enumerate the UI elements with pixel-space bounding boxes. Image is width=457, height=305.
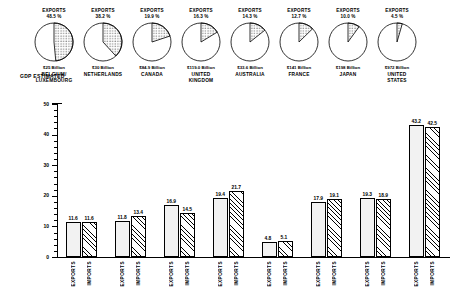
bar-value-label: 43.2 — [412, 119, 422, 124]
pie-country-name: AUSTRALIA — [235, 72, 265, 79]
bar-exports — [164, 205, 179, 257]
bar-imports — [180, 213, 195, 257]
bar-value-label: 19.3 — [363, 192, 373, 197]
y-axis-tick-label: 10 — [33, 224, 49, 229]
bar-value-label: 13.4 — [134, 210, 144, 215]
x-label-imports: IMPORTS — [87, 261, 92, 286]
pie-gdp-value: $119.0 Billion — [187, 65, 215, 72]
pie-circle — [279, 22, 319, 62]
bar-group: 43.242.5 — [400, 104, 449, 257]
pie-percent-label: 4.5 % — [391, 14, 403, 20]
bar-exports — [262, 242, 277, 257]
pie-cell: EXPORTS19.9 %$84.9 BillionCANADA — [126, 8, 178, 78]
pie-circle — [328, 22, 368, 62]
x-label-imports: IMPORTS — [332, 261, 337, 286]
bar-group: 11.813.4 — [106, 104, 155, 257]
pie-circle — [34, 22, 74, 62]
bar-value-label: 11.8 — [118, 215, 127, 220]
pie-circle — [377, 22, 417, 62]
pie-country-name: CANADA — [141, 72, 163, 79]
pie-chart-row: EXPORTS48.5 %$25 BillionBELGIUM/LUXEMBOU… — [0, 0, 457, 100]
bar-value-label: 4.8 — [265, 236, 272, 241]
pie-cell: EXPORTS12.7 %$141 BillionFRANCE — [273, 8, 325, 78]
x-label-imports: IMPORTS — [234, 261, 239, 286]
bar-exports — [213, 198, 228, 257]
bar-exports — [360, 198, 375, 257]
pie-country-name: NETHERLANDS — [84, 72, 122, 79]
y-axis-tick-major — [52, 257, 57, 258]
x-label-imports: IMPORTS — [283, 261, 288, 286]
pie-gdp-value: $198 Billion — [336, 65, 360, 72]
bar-value-label: 18.9 — [379, 193, 389, 198]
bar-value-label: 5.1 — [281, 235, 288, 240]
x-label-exports: EXPORTS — [218, 261, 223, 287]
bar-value-label: 11.6 — [69, 216, 78, 221]
bar-value-label: 42.5 — [428, 121, 438, 126]
y-axis-tick-label: 30 — [33, 163, 49, 168]
pie-cell: EXPORTS16.3 %$119.0 BillionUNITEDKINGDOM — [175, 8, 227, 85]
pie-gdp-value: $33.6 Billion — [237, 65, 263, 72]
pie-percent-label: 48.5 % — [47, 14, 62, 20]
pie-circle — [132, 22, 172, 62]
pie-gdp-value: $141 Billion — [287, 65, 311, 72]
bar-group: 4.85.1 — [253, 104, 302, 257]
pie-percent-label: 12.7 % — [292, 14, 307, 20]
bar-value-label: 19.4 — [216, 192, 226, 197]
gdp-estimated-label: GDP ESTIMATED — [20, 73, 65, 79]
pie-gdp-value: $972 Billion — [385, 65, 409, 72]
y-axis-tick-label: 40 — [33, 132, 49, 137]
bar-chart: 01020304050 11.611.611.813.416.914.519.4… — [0, 100, 457, 305]
pie-cell: EXPORTS14.3 %$33.6 BillionAUSTRALIA — [224, 8, 276, 78]
bar-group: 19.421.7 — [204, 104, 253, 257]
x-label-imports: IMPORTS — [185, 261, 190, 286]
pie-circle — [230, 22, 270, 62]
x-label-exports: EXPORTS — [365, 261, 370, 287]
bar-value-label: 21.7 — [232, 185, 242, 190]
x-label-imports: IMPORTS — [136, 261, 141, 286]
bar-imports — [229, 191, 244, 257]
bar-value-label: 16.9 — [167, 199, 177, 204]
pie-cell: EXPORTS10.0 %$198 BillionJAPAN — [322, 8, 374, 78]
bar-value-label: 14.5 — [183, 207, 193, 212]
bar-exports — [66, 222, 81, 257]
bar-exports — [409, 125, 424, 257]
bar-value-label: 19.1 — [330, 193, 340, 198]
bar-group: 17.919.1 — [302, 104, 351, 257]
pie-country-name: UNITEDSTATES — [387, 72, 406, 86]
x-label-exports: EXPORTS — [169, 261, 174, 287]
y-axis-tick-label: 50 — [33, 102, 49, 107]
pie-percent-label: 16.3 % — [194, 14, 209, 20]
bar-exports — [115, 221, 130, 257]
bar-value-label: 17.9 — [314, 196, 324, 201]
bar-imports — [278, 241, 293, 257]
pie-percent-label: 38.2 % — [96, 14, 111, 20]
pie-percent-label: 19.9 % — [145, 14, 160, 20]
bar-imports — [131, 216, 146, 257]
pie-country-name: FRANCE — [288, 72, 309, 79]
bar-series-container: 11.611.611.813.416.914.519.421.74.85.117… — [57, 104, 449, 257]
x-label-imports: IMPORTS — [430, 261, 435, 286]
y-axis-tick-label: 0 — [33, 255, 49, 260]
pie-percent-label: 10.0 % — [341, 14, 356, 20]
pie-gdp-value: $30 Billion — [92, 65, 114, 72]
pie-gdp-value: $84.9 Billion — [139, 65, 165, 72]
bar-imports — [376, 199, 391, 257]
pie-country-name: JAPAN — [340, 72, 357, 79]
x-label-exports: EXPORTS — [267, 261, 272, 287]
pie-country-name: UNITEDKINGDOM — [189, 72, 214, 86]
y-axis-tick-label: 20 — [33, 193, 49, 198]
bar-group: 19.318.9 — [351, 104, 400, 257]
bar-value-label: 11.6 — [85, 216, 94, 221]
chart-page: EXPORTS48.5 %$25 BillionBELGIUM/LUXEMBOU… — [0, 0, 457, 305]
pie-gdp-value: $25 Billion — [43, 65, 65, 72]
pie-circle — [83, 22, 123, 62]
x-label-exports: EXPORTS — [71, 261, 76, 287]
bar-imports — [82, 222, 97, 257]
x-label-exports: EXPORTS — [414, 261, 419, 287]
bar-exports — [311, 202, 326, 257]
bar-imports — [425, 127, 440, 257]
x-label-imports: IMPORTS — [381, 261, 386, 286]
pie-circle — [181, 22, 221, 62]
pie-percent-label: 14.3 % — [243, 14, 258, 20]
x-label-exports: EXPORTS — [316, 261, 321, 287]
